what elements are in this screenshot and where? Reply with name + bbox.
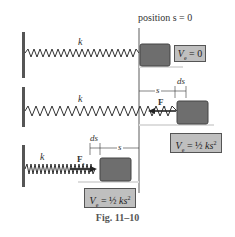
increment-label-2: ds [177, 76, 185, 86]
energy-label-1: Ve = 0 [174, 45, 206, 62]
energy-label-2: Ve = ½ ks2 [170, 133, 222, 153]
wall-3 [22, 145, 25, 187]
spring-constant-label-3: k [40, 151, 44, 162]
block-2 [177, 101, 208, 124]
spring-constant-label-2: k [78, 93, 82, 104]
spring-constant-label-1: k [78, 36, 82, 47]
displacement-label-2: s [155, 85, 161, 95]
block-1 [140, 44, 170, 66]
displacement-label-3: s [117, 142, 123, 152]
force-label-3: Fs [77, 154, 84, 166]
reference-line-label: position s = 0 [138, 12, 192, 23]
increment-label-3: ds [90, 133, 98, 143]
energy-label-3: Ve = ½ ks2 [84, 188, 136, 208]
force-arrowhead-3 [90, 166, 97, 172]
force-label-2: Fs [158, 97, 165, 109]
spring-1 [25, 49, 139, 57]
wall-1 [22, 32, 25, 78]
wall-2 [22, 87, 25, 127]
block-3 [100, 158, 131, 181]
figure-caption: Fig. 11–10 [0, 212, 235, 223]
